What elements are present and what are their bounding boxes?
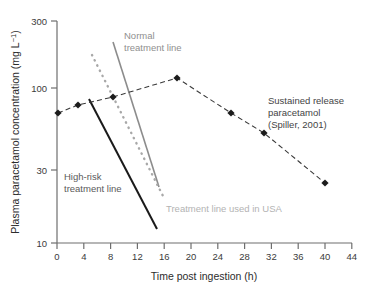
- y-axis-title-tail: ): [9, 30, 21, 34]
- annotation-usa-treatment-line: Treatment line used in USA: [166, 203, 282, 214]
- x-tick-label-16: 16: [159, 251, 170, 262]
- sustained-release-label-line3: (Spiller, 2001): [268, 119, 327, 130]
- high-risk-treatment-line-label-line2: treatment line: [64, 183, 122, 194]
- y-axis-title-main: Plasma paracetamol concentration (mg L: [9, 42, 21, 234]
- x-tick-label-8: 8: [108, 251, 113, 262]
- chart-figure: 300 100 30 10 0 4 8 12 16 20 2: [0, 0, 369, 294]
- y-tick-label-300: 300: [31, 16, 47, 27]
- y-axis-title: Plasma paracetamol concentration (mg L−1…: [9, 30, 22, 234]
- y-tick-label-30: 30: [36, 165, 47, 176]
- high-risk-treatment-line-label-line1: High-risk: [64, 171, 102, 182]
- chart-plot-area: 300 100 30 10 0 4 8 12 16 20 2: [0, 0, 369, 294]
- x-tick-label-28: 28: [239, 251, 250, 262]
- x-tick-label-40: 40: [320, 251, 331, 262]
- data-point-marker: [227, 109, 234, 116]
- x-tick-label-20: 20: [186, 251, 197, 262]
- y-tick-label-100: 100: [31, 83, 47, 94]
- x-tick-label-32: 32: [266, 251, 277, 262]
- svg-text:Plasma paracetamol concentrati: Plasma paracetamol concentration (mg L−1…: [9, 30, 22, 234]
- y-axis-ticks: [51, 21, 57, 243]
- x-tick-label-12: 12: [132, 251, 143, 262]
- x-tick-label-36: 36: [293, 251, 304, 262]
- y-axis-tick-labels: 300 100 30 10: [31, 16, 47, 249]
- x-axis-title: Time post ingestion (h): [151, 270, 257, 282]
- data-point-marker: [173, 74, 180, 81]
- series-normal-treatment-line: [113, 42, 159, 187]
- normal-treatment-line-label-line1: Normal: [124, 30, 155, 41]
- x-tick-label-4: 4: [81, 251, 86, 262]
- data-point-marker: [321, 179, 328, 186]
- data-point-marker: [109, 93, 116, 100]
- x-axis-ticks: [57, 243, 352, 249]
- x-tick-label-44: 44: [347, 251, 358, 262]
- sustained-release-label-line1: Sustained release: [268, 95, 344, 106]
- y-tick-label-10: 10: [36, 238, 47, 249]
- data-point-marker: [54, 109, 61, 116]
- annotation-high-risk-treatment-line: High-risk treatment line: [64, 171, 122, 194]
- sustained-release-label-line2: paracetamol: [268, 107, 320, 118]
- annotation-normal-treatment-line: Normal treatment line: [124, 30, 182, 53]
- annotation-sustained-release: Sustained release paracetamol (Spiller, …: [268, 95, 344, 130]
- y-axis-title-superscript: −1: [9, 34, 18, 43]
- x-tick-label-0: 0: [54, 251, 59, 262]
- x-tick-label-24: 24: [213, 251, 224, 262]
- x-axis-tick-labels: 0 4 8 12 16 20 24 28 32 36 40 44: [54, 251, 357, 262]
- series-sustained-release-line: [58, 78, 325, 183]
- normal-treatment-line-label-line2: treatment line: [124, 42, 182, 53]
- series-sustained-release-markers: [54, 74, 328, 186]
- data-point-marker: [74, 101, 81, 108]
